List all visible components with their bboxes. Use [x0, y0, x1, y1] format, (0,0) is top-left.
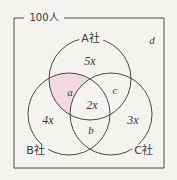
- venn-diagram-canvas: [0, 0, 177, 180]
- venn-diagram-figure: 100人 A社 B社 C社 5x 4x 3x a c b 2x d: [0, 0, 177, 180]
- shaded-region-a: [0, 0, 177, 180]
